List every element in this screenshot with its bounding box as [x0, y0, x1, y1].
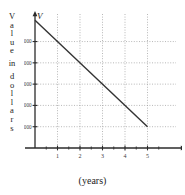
x-axis-tick-labels: 12345: [56, 153, 149, 159]
y-axis-caption: V a l u e in d o l l a r s: [2, 12, 22, 172]
data-line: [35, 20, 148, 126]
chart-figure: V a l u e in d o l l a r s 1000200030004…: [0, 0, 185, 195]
x-tick-label: 3: [101, 153, 104, 159]
y-axis-caption-char: e: [10, 46, 14, 55]
y-tick-label: 3000: [24, 81, 32, 87]
y-axis-symbol-label: V: [37, 11, 44, 21]
x-axis-arrowhead: [181, 146, 182, 151]
y-tick-label: 4000: [24, 60, 32, 66]
plot-area: 10002000300040005000 12345 V t: [24, 10, 182, 170]
y-axis-caption-char: s: [10, 124, 13, 133]
chart-svg: 10002000300040005000 12345 V t: [24, 10, 182, 170]
y-tick-label: 2000: [24, 102, 32, 108]
x-axis-caption: (years): [0, 175, 185, 186]
x-tick-label: 1: [56, 153, 59, 159]
y-axis-caption-char: in: [9, 59, 16, 68]
x-tick-label: 4: [124, 153, 127, 159]
y-tick-label: 1000: [24, 124, 32, 130]
y-tick-label: 5000: [24, 38, 32, 44]
x-tick-label: 2: [79, 153, 82, 159]
vertical-gridlines: [58, 14, 148, 148]
x-tick-label: 5: [146, 153, 149, 159]
y-axis-tick-labels: 10002000300040005000: [24, 38, 32, 129]
data-line-series: [35, 20, 148, 126]
horizontal-gridlines: [35, 42, 176, 127]
axis-lines: [25, 11, 182, 150]
